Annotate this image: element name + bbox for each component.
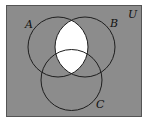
label-c: C: [96, 98, 105, 111]
label-universe: U: [128, 8, 138, 21]
label-b: B: [109, 17, 118, 30]
label-a: A: [24, 18, 33, 31]
venn-diagram: A B C U: [0, 0, 146, 119]
